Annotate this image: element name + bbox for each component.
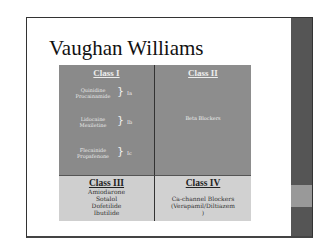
brace-icon: } (117, 146, 124, 158)
class-2-cell: Class II Beta Blockers (155, 65, 251, 175)
brace-icon: } (117, 86, 124, 98)
slide-sidebar-decoration (291, 18, 312, 236)
slide: Vaughan Williams Class I QuinidineProcai… (26, 17, 313, 238)
drug-name: Propafenone (71, 153, 115, 159)
class-4-line3: ) (155, 209, 251, 216)
drug-name: Procainamide (71, 93, 115, 99)
class-4-cell: Class IV Ca-channel Blockers (Verapamil/… (155, 175, 251, 221)
class-1-cell: Class I QuinidineProcainamide } Ia Lidoc… (59, 65, 155, 175)
class-3-cell: Class III Amiodarone Sotalol Dofetilide … (59, 175, 155, 221)
subclass-label: Ia (127, 90, 132, 96)
slide-title: Vaughan Williams (49, 36, 204, 61)
class-3-header: Class III (59, 178, 154, 188)
drug-name: Dofetilide (59, 202, 154, 209)
class-4-line2: (Verapamil/Diltiazem (155, 202, 251, 209)
class-1-header: Class I (59, 68, 154, 78)
sidebar-highlight (291, 185, 312, 207)
class-4-header: Class IV (155, 178, 251, 188)
classification-table: Class I QuinidineProcainamide } Ia Lidoc… (59, 65, 251, 221)
class-2-header: Class II (155, 68, 251, 78)
drug-name: Ibutilide (59, 209, 154, 216)
class-4-line1: Ca-channel Blockers (155, 195, 251, 202)
drug-name: Mexiletine (71, 122, 115, 128)
drug-name: Amiodarone (59, 188, 154, 195)
brace-icon: } (117, 115, 124, 127)
subclass-label: Ib (127, 119, 132, 125)
class-2-drugs: Beta Blockers (155, 115, 251, 121)
drug-name: Sotalol (59, 195, 154, 202)
subclass-label: Ic (127, 150, 132, 156)
